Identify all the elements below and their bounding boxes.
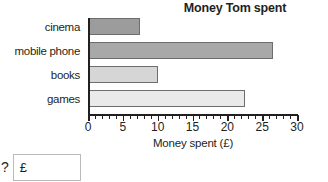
category-label-books: books [0, 70, 80, 82]
x-axis-tick-label: 10 [146, 121, 170, 133]
question-mark-label: ? [1, 160, 9, 174]
x-axis-minor-tick [151, 115, 152, 119]
bar-cinema [88, 18, 140, 35]
x-axis-minor-tick [241, 115, 242, 119]
x-axis-minor-tick [144, 115, 145, 119]
x-axis-tick-label: 25 [250, 121, 274, 133]
x-axis-minor-tick [276, 115, 277, 119]
bar-chart-figure: Money Tom spent cinema mobile phone book… [0, 0, 328, 160]
category-label-mobile-phone: mobile phone [0, 46, 80, 58]
plot-area [88, 18, 297, 114]
x-axis-minor-tick [172, 115, 173, 119]
x-axis-minor-tick [186, 115, 187, 119]
x-axis-tick-label: 5 [111, 121, 135, 133]
x-axis-minor-tick [102, 115, 103, 119]
x-axis-minor-tick [179, 115, 180, 119]
x-axis-minor-tick [220, 115, 221, 119]
category-label-games: games [0, 94, 80, 106]
x-axis-minor-tick [234, 115, 235, 119]
bar-mobile-phone [88, 42, 273, 59]
chart-title: Money Tom spent [150, 1, 320, 15]
y-axis-line [88, 18, 90, 115]
x-axis-minor-tick [109, 115, 110, 119]
x-axis-minor-tick [165, 115, 166, 119]
x-axis-tick-label: 30 [285, 121, 309, 133]
x-axis-minor-tick [283, 115, 284, 119]
x-axis-tick-label: 20 [215, 121, 239, 133]
category-axis-labels: cinema mobile phone books games [0, 18, 84, 114]
x-axis-minor-tick [206, 115, 207, 119]
currency-symbol-label: £ [20, 161, 27, 174]
answer-input-box[interactable]: £ [13, 154, 81, 181]
x-axis-title: Money spent (£) [88, 137, 298, 149]
x-axis-minor-tick [95, 115, 96, 119]
x-axis-tick-label: 15 [181, 121, 205, 133]
x-axis-minor-tick [130, 115, 131, 119]
bar-games [88, 90, 245, 107]
answer-row: ? £ [0, 152, 81, 182]
x-axis-minor-tick [269, 115, 270, 119]
x-axis-minor-tick [213, 115, 214, 119]
x-axis-minor-tick [116, 115, 117, 119]
x-axis-minor-tick [137, 115, 138, 119]
x-axis-minor-tick [290, 115, 291, 119]
x-axis-minor-tick [199, 115, 200, 119]
x-axis-minor-tick [255, 115, 256, 119]
bar-books [88, 66, 158, 83]
x-axis-tick-label: 0 [76, 121, 100, 133]
x-axis-minor-tick [248, 115, 249, 119]
category-label-cinema: cinema [0, 22, 80, 34]
